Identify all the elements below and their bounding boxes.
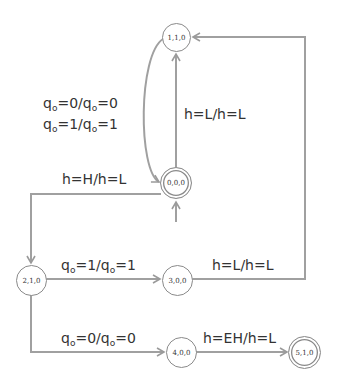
edge-label-000-210: h=H/h=L <box>62 172 126 186</box>
state-node-1-1-0: 1,1,0 <box>162 23 191 52</box>
state-label: 1,1,0 <box>168 34 186 42</box>
state-label: 2,1,0 <box>23 277 41 285</box>
edge-000-to-210 <box>31 194 161 263</box>
edge-label-300-110: h=L/h=L <box>212 258 274 272</box>
state-label: 3,0,0 <box>169 277 187 285</box>
label-part: =1/q <box>57 116 91 132</box>
label-part: q <box>61 330 70 346</box>
label-part: q <box>61 257 70 273</box>
state-label: 4,0,0 <box>173 349 191 357</box>
label-part: =0/q <box>75 330 109 346</box>
edge-label-210-300: qo=1/qo=1 <box>61 258 136 272</box>
label-part: =0 <box>115 330 136 346</box>
edge-300-to-110 <box>192 37 305 279</box>
label-part: q <box>43 95 52 111</box>
edge-label-210-400: qo=0/qo=0 <box>61 331 136 345</box>
label-part: =1 <box>115 257 136 273</box>
label-part: =1/q <box>75 257 109 273</box>
state-label: 5,1,0 <box>296 349 314 357</box>
state-label: 0,0,0 <box>167 179 185 187</box>
edge-label-110-000-line1: qo=0/qo=0 <box>43 96 118 110</box>
state-diagram: 1,1,0 0,0,0 2,1,0 3,0,0 4,0,0 5,1,0 h=L/… <box>0 0 338 392</box>
state-node-5-1-0: 5,1,0 <box>288 336 321 369</box>
state-node-4-0-0: 4,0,0 <box>166 337 197 368</box>
label-part: =1 <box>97 116 118 132</box>
label-part: =0 <box>97 95 118 111</box>
edge-110-to-000 <box>144 39 163 182</box>
label-part: =0/q <box>57 95 91 111</box>
state-node-2-1-0: 2,1,0 <box>16 265 47 296</box>
edge-label-400-510: h=EH/h=L <box>203 331 276 345</box>
edge-label-110-000-line2: qo=1/qo=1 <box>43 117 118 131</box>
label-part: q <box>43 116 52 132</box>
edge-label-000-110: h=L/h=L <box>184 107 246 121</box>
state-node-3-0-0: 3,0,0 <box>162 265 193 296</box>
state-node-0-0-0: 0,0,0 <box>160 167 192 199</box>
